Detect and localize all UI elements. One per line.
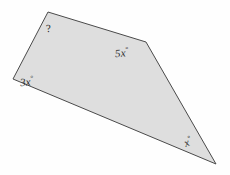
quadrilateral-figure <box>0 0 230 175</box>
angle-label-unknown-text: ? <box>46 22 52 34</box>
degree-symbol-icon: ° <box>125 45 129 53</box>
angle-label-three-x: 3x° <box>19 75 34 88</box>
angle-label-five-x: 5x° <box>115 46 130 59</box>
diagram-canvas: ? 5x° 3x° x° <box>0 0 230 175</box>
angle-label-unknown: ? <box>46 23 52 34</box>
